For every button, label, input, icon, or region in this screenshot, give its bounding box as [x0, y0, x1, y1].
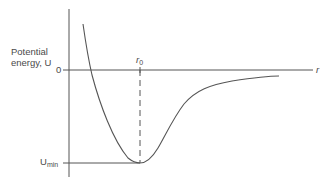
y-axis-label-line1: Potential — [11, 46, 51, 57]
r0-label: r0 — [136, 54, 143, 68]
potential-curve — [83, 24, 279, 163]
umin-label-main: U — [40, 156, 47, 167]
zero-label: 0 — [56, 64, 61, 75]
x-axis-label: r — [316, 64, 319, 75]
y-axis-label: Potential energy, U — [11, 46, 51, 68]
umin-label-sub: min — [47, 161, 58, 168]
umin-label: Umin — [40, 156, 58, 170]
r0-label-sub: 0 — [139, 59, 143, 66]
y-axis-label-line2: energy, U — [11, 57, 51, 68]
potential-energy-diagram: Potential energy, U 0 Umin r0 r — [0, 0, 329, 185]
